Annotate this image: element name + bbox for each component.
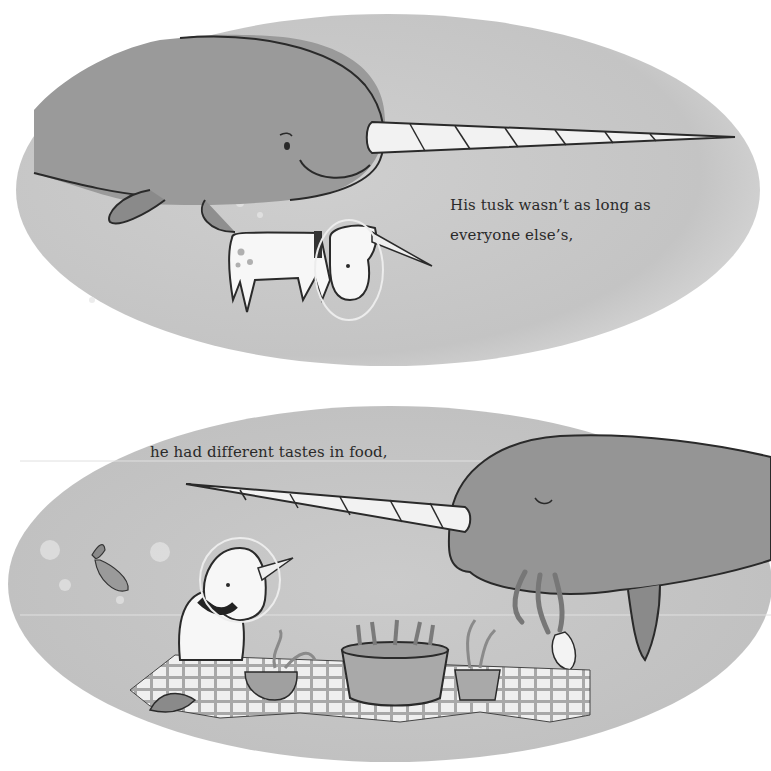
- top-caption: His tusk wasn’t as long as everyone else…: [450, 190, 750, 250]
- book-page: His tusk wasn’t as long as everyone else…: [0, 0, 771, 771]
- caption-line: everyone else’s,: [450, 220, 750, 250]
- caption-line: he had different tastes in food,: [150, 437, 470, 467]
- bottom-caption: he had different tastes in food,: [150, 437, 470, 467]
- bucket-of-shrimp: [342, 620, 448, 706]
- illustration: [0, 0, 771, 771]
- caption-line: His tusk wasn’t as long as: [450, 190, 750, 220]
